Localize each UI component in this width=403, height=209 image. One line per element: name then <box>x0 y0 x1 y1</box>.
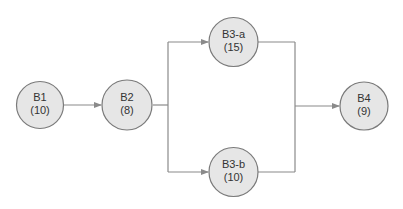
node-b3a: B3-a (15) <box>209 18 258 67</box>
node-b2-duration: (8) <box>120 104 133 116</box>
node-b3a-duration: (15) <box>224 41 244 53</box>
node-b1-name: B1 <box>33 91 46 103</box>
node-b1: B1 (10) <box>17 82 64 129</box>
network-diagram: B1 (10) B2 (8) B3-a (15) B3-b (10) B4 (9… <box>0 0 403 209</box>
node-b4-name: B4 <box>357 92 370 104</box>
node-b1-duration: (10) <box>30 104 50 116</box>
node-b4-duration: (9) <box>357 105 370 117</box>
node-b4: B4 (9) <box>340 82 388 130</box>
node-b3b-name: B3-b <box>222 158 245 170</box>
node-b2-name: B2 <box>120 91 133 103</box>
node-b3b: B3-b (10) <box>209 148 258 197</box>
node-b3a-name: B3-a <box>222 28 246 40</box>
node-b2: B2 (8) <box>102 80 152 130</box>
node-b3b-duration: (10) <box>224 171 244 183</box>
